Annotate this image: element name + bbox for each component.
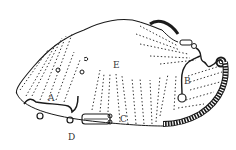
segmented-coil [163,62,226,124]
diagram-canvas: A B C D E [0,0,236,150]
tube-upper [180,40,192,45]
mark-3 [80,70,84,74]
specimen-diagram: A B C D E [0,0,236,150]
body-outline [16,20,162,94]
wavy-tube-b [196,48,222,67]
tube-b-bulb [178,94,186,102]
label-a: A [47,93,55,103]
label-b: B [184,76,191,86]
label-d: D [68,132,75,142]
mark-1 [84,57,88,61]
tube-upper-end [192,44,197,49]
base-line [17,94,163,126]
label-c: C [120,114,127,124]
label-e: E [113,60,120,70]
pore-a [37,113,43,119]
